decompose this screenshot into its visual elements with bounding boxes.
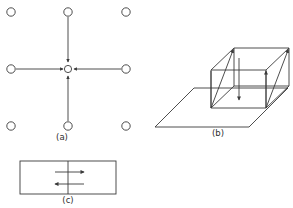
panel-b: (b) — [155, 48, 289, 138]
box-edge-depth-top-right — [266, 48, 289, 70]
atom-circle — [122, 122, 130, 130]
atom-circle — [64, 8, 72, 16]
atom-circle — [122, 65, 130, 73]
box-arrow-up-back-left — [211, 50, 233, 109]
box-edge-depth-bottom-left — [211, 86, 234, 108]
box-back-edges — [234, 48, 289, 86]
shear-arrows — [55, 172, 84, 184]
panel-a: (a) — [7, 8, 130, 142]
atom-circle — [64, 122, 72, 130]
panel-a-caption: (a) — [56, 132, 68, 142]
atom-circle — [7, 122, 15, 130]
figure-root: (a) — [0, 0, 293, 208]
vacancy-circle — [64, 65, 71, 72]
panel-c: (c) — [20, 161, 116, 205]
box-edge-depth-bottom-right — [266, 86, 289, 108]
atom-circle — [7, 65, 15, 73]
technical-diagram: (a) — [0, 0, 293, 208]
ground-plane — [155, 88, 288, 127]
atom-circle — [122, 8, 130, 16]
panel-b-caption: (b) — [212, 128, 224, 138]
panel-c-caption: (c) — [62, 195, 73, 205]
box-edge-depth-top-left — [211, 48, 234, 70]
atom-circle — [7, 8, 15, 16]
box-front-edges — [211, 70, 266, 108]
